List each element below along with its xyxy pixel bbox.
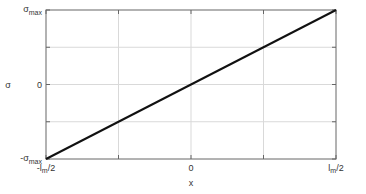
- y-tick-label: 0: [37, 80, 42, 90]
- y-tick-label: σmax: [23, 4, 42, 16]
- x-tick-label: lm/2: [328, 163, 343, 174]
- x-tick-labels: -lm/20lm/2: [37, 163, 344, 174]
- y-tick-labels: -σmax0σmax: [20, 4, 42, 165]
- y-tick-label: -σmax: [20, 153, 42, 165]
- x-axis-label: x: [189, 178, 194, 188]
- y-axis-label: σ: [5, 80, 11, 90]
- x-tick-label: 0: [188, 163, 193, 173]
- chart: -lm/20lm/2 -σmax0σmax x σ: [0, 0, 366, 194]
